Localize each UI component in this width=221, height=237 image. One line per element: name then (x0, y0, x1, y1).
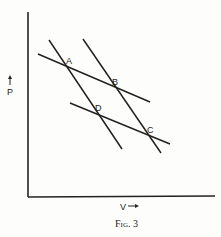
point-label-c: C (147, 125, 154, 135)
point-label-d: D (95, 103, 102, 113)
y-arrowhead-icon (8, 75, 12, 79)
x-axis (28, 196, 215, 197)
x-axis-label: V (120, 202, 126, 212)
pv-diagram: A B C D P V Fig. 3 (0, 0, 221, 237)
point-label-a: A (66, 56, 72, 66)
curve-lower-shallow (70, 103, 170, 144)
curve-left-steep (49, 40, 122, 149)
figure-caption: Fig. 3 (115, 218, 138, 229)
curve-upper-shallow (38, 54, 150, 102)
y-axis-label: P (7, 87, 13, 97)
x-arrowhead-icon (135, 204, 139, 208)
point-label-b: B (112, 77, 118, 87)
